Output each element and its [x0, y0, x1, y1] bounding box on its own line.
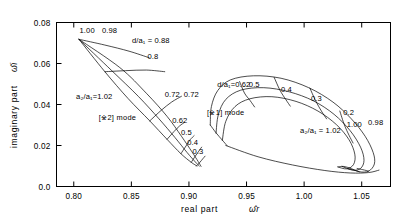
curve-label: 0.72	[165, 90, 180, 99]
svg-text:ω̂i: ω̂i	[9, 62, 19, 72]
curve-label: a₂/a₁=1.02	[76, 92, 112, 101]
y-tick-label: 0.08	[34, 19, 51, 28]
curve-label: 1.00	[80, 26, 95, 35]
y-axis-title: imaginary part ω̂i	[9, 62, 19, 148]
curve-label: 0.5	[181, 128, 192, 137]
curve-group	[79, 39, 379, 173]
x-tick-labels: 0.800.850.900.951.001.05	[65, 192, 370, 201]
x-axis-title: real part ω̂r	[181, 204, 260, 214]
locus-curve-mode2-a2a1-1.02	[79, 39, 197, 166]
curve-label: 0.4	[187, 138, 198, 147]
curve-label: 0.98	[102, 26, 117, 35]
y-tick-label: 0.04	[34, 101, 51, 110]
x-tick-label: 1.00	[296, 192, 313, 201]
eigenvalue-locus-plot: 0.800.850.900.951.001.05 0.00.020.040.06…	[0, 0, 410, 222]
curve-label: 0.2	[343, 108, 354, 117]
curve-label: 0.98	[368, 118, 383, 127]
curve-label: 0.3	[311, 94, 322, 103]
curve-label: 0.72	[184, 90, 199, 99]
curve-label: d/a₁ = 0.88	[132, 36, 170, 45]
locus-curve-mode2-d-0.80	[105, 70, 165, 72]
curve-label: d/a₁=0.62	[217, 80, 250, 89]
curve-annotations: 1.000.98d/a₁ = 0.880.8a₂/a₁=1.020.720.72…	[76, 26, 383, 156]
curve-label: 1.00	[347, 120, 362, 129]
x-tick-label: 1.05	[353, 192, 370, 201]
curve-label: 0.8	[147, 52, 158, 61]
locus-curve-mode1-lower-tail	[226, 146, 379, 174]
svg-text:imaginary part: imaginary part	[9, 85, 19, 148]
y-tick-label: 0.06	[34, 60, 51, 69]
svg-text:ω̂r: ω̂r	[249, 204, 260, 214]
y-tick-labels: 0.00.020.040.060.08	[34, 19, 51, 192]
y-axis-ticks	[57, 23, 62, 187]
x-tick-label: 0.80	[65, 192, 82, 201]
mode-label: [※1] mode	[207, 108, 244, 117]
x-tick-label: 0.85	[123, 192, 140, 201]
y-tick-label: 0.0	[39, 183, 51, 192]
y-tick-label: 0.02	[34, 142, 51, 151]
figure-complex-frequency-plane: 0.800.850.900.951.001.05 0.00.020.040.06…	[0, 0, 410, 222]
mode-label: [※2] mode	[99, 113, 136, 122]
x-tick-label: 0.95	[238, 192, 255, 201]
x-axis-ticks	[74, 23, 362, 187]
x-tick-label: 0.90	[181, 192, 198, 201]
curve-label: a₂/a₁ = 1.02	[300, 126, 341, 135]
svg-text:real part: real part	[181, 204, 218, 214]
curve-label: 0.5	[249, 80, 260, 89]
curve-label: 0.4	[281, 85, 292, 94]
plot-frame	[57, 23, 391, 187]
curve-label: 0.3	[192, 147, 203, 156]
locus-curve-mode2-a2a1-1.00	[79, 39, 199, 166]
curve-label: 0.62	[172, 116, 187, 125]
